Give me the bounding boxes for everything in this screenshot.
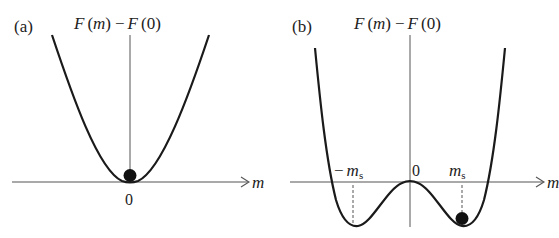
- panel-b: (b) F(m)−F(0) m 0 −ms ms: [290, 14, 559, 227]
- panel-b-pos-ms-label: ms: [449, 161, 466, 181]
- panel-a-x-axis-label: m: [252, 173, 264, 192]
- panel-b-ball-icon: [456, 212, 469, 225]
- figure-canvas: (a) F(m)−F(0) m 0 (b) F(m)−F(0) m 0 −ms …: [0, 0, 559, 238]
- panel-b-label: (b): [292, 17, 312, 36]
- panel-a-y-axis-label: F(m)−F(0): [73, 14, 161, 33]
- panel-b-origin-label: 0: [412, 162, 420, 179]
- panel-a-label: (a): [14, 17, 33, 36]
- panel-a-origin-label: 0: [125, 191, 133, 208]
- panel-a: (a) F(m)−F(0) m 0: [12, 14, 264, 208]
- panel-b-neg-ms-label: −ms: [334, 161, 363, 181]
- panel-a-ball-icon: [124, 169, 137, 182]
- panel-b-x-axis-label: m: [547, 173, 559, 192]
- panel-b-y-axis-label: F(m)−F(0): [353, 14, 441, 33]
